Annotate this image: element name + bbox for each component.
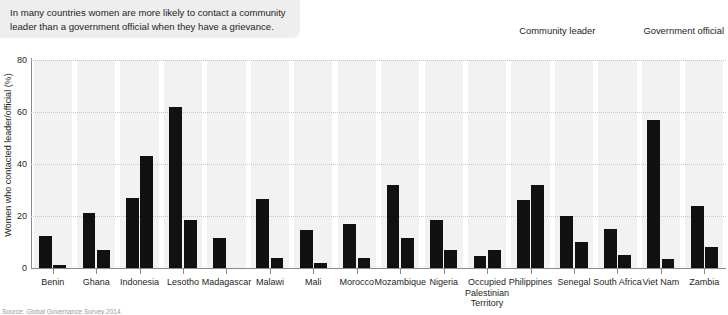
x-axis-tick-labels: BeninGhanaIndonesiaLesothoMadagascarMala… (31, 268, 726, 315)
bar-senegal-government-official (575, 242, 588, 268)
bar-philippines-community-leader (517, 200, 530, 268)
y-tick-0: 0 (5, 263, 27, 273)
legend-item-community-leader: Community leader (501, 25, 595, 36)
y-tick-40: 40 (5, 159, 27, 169)
legend-label-government-official: Government official (643, 25, 724, 36)
bar-viet-nam-government-official (662, 259, 675, 268)
bar-malawi-government-official (271, 258, 284, 268)
chart-legend: Community leader Government official (501, 25, 724, 36)
x-tick-mark (270, 268, 271, 274)
x-tick-mark (617, 268, 618, 274)
plot-area (31, 60, 726, 268)
bar-morocco-community-leader (343, 224, 356, 268)
x-tick-mark (53, 268, 54, 274)
y-axis-tick-labels: 020406080 (0, 50, 27, 275)
bar-ghana-community-leader (83, 213, 96, 268)
bar-nigeria-community-leader (430, 220, 443, 268)
bar-morocco-government-official (358, 258, 371, 268)
source-note: Source: Global Governance Survey 2014 (2, 308, 121, 315)
bar-mozambique-government-official (401, 238, 414, 268)
y-tick-20: 20 (5, 211, 27, 221)
x-tick-mark (531, 268, 532, 274)
x-tick-mark (704, 268, 705, 274)
bar-occupied-palestinian-territory-government-official (488, 250, 501, 268)
bar-mozambique-community-leader (387, 185, 400, 268)
x-tick-mark (313, 268, 314, 274)
x-tick-mark (183, 268, 184, 274)
square-swatch-icon (625, 25, 636, 36)
x-tick-mark (444, 268, 445, 274)
bar-malawi-community-leader (256, 199, 269, 268)
caption-text: In many countries women are more likely … (10, 6, 290, 33)
x-label-zambia: Zambia (672, 277, 728, 288)
bar-lesotho-government-official (184, 220, 197, 268)
bar-zambia-government-official (705, 247, 718, 268)
bar-occupied-palestinian-territory-community-leader (474, 256, 487, 268)
bar-chart: Women who contacted leader/official (%) … (0, 50, 728, 315)
x-tick-mark (661, 268, 662, 274)
bar-ghana-government-official (97, 250, 110, 268)
bar-philippines-government-official (531, 185, 544, 268)
bar-viet-nam-community-leader (647, 120, 660, 268)
y-tick-80: 80 (5, 55, 27, 65)
bar-madagascar-community-leader (213, 238, 226, 268)
x-tick-mark (140, 268, 141, 274)
bar-lesotho-community-leader (169, 107, 182, 268)
bar-indonesia-government-official (140, 156, 153, 268)
bar-nigeria-government-official (444, 250, 457, 268)
caption-box: In many countries women are more likely … (0, 0, 300, 38)
x-tick-mark (487, 268, 488, 274)
y-tick-60: 60 (5, 107, 27, 117)
x-tick-mark (226, 268, 227, 274)
legend-item-government-official: Government official (625, 25, 724, 36)
bar-south-africa-community-leader (604, 229, 617, 268)
square-swatch-icon (501, 25, 512, 36)
x-tick-mark (96, 268, 97, 274)
bar-senegal-community-leader (560, 216, 573, 268)
legend-label-community-leader: Community leader (519, 25, 595, 36)
x-tick-mark (357, 268, 358, 274)
bar-south-africa-government-official (618, 255, 631, 268)
x-tick-mark (400, 268, 401, 274)
bar-mali-community-leader (300, 230, 313, 268)
bar-indonesia-community-leader (126, 198, 139, 268)
bar-zambia-community-leader (691, 206, 704, 268)
bar-series-container (31, 60, 726, 268)
x-tick-mark (574, 268, 575, 274)
bar-benin-community-leader (39, 236, 52, 268)
